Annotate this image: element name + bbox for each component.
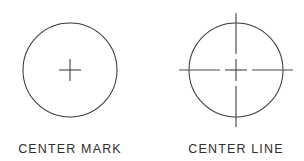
figure-canvas: CENTER MARK CENTER LINE <box>0 0 304 161</box>
center-line-caption: CENTER LINE <box>188 142 283 156</box>
drafting-figure: CENTER MARK CENTER LINE <box>0 0 304 161</box>
panel-center-line: CENTER LINE <box>179 13 293 156</box>
center-line-crosshair <box>179 13 293 127</box>
center-mark-plus <box>59 59 81 81</box>
center-mark-caption: CENTER MARK <box>18 142 122 156</box>
panel-center-mark: CENTER MARK <box>18 23 122 156</box>
